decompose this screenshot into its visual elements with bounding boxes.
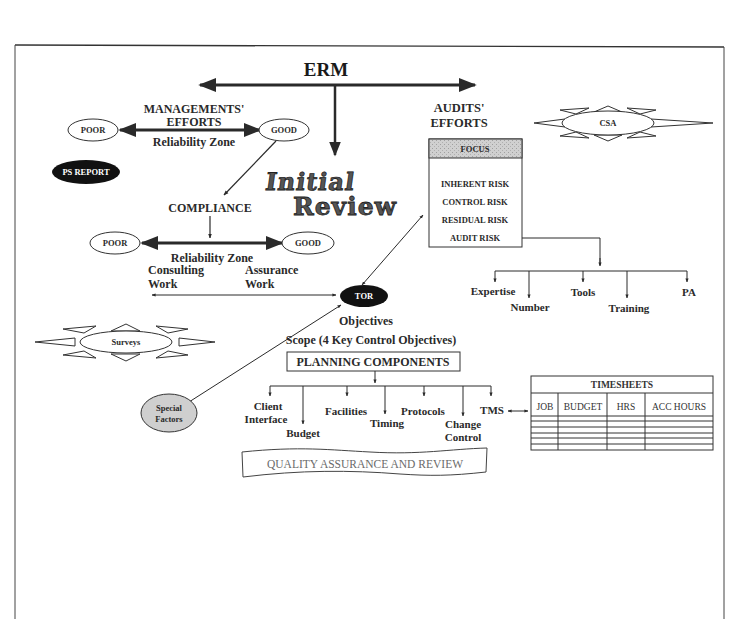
component-timing: Timing — [370, 417, 405, 429]
component-change-control-line2: Control — [445, 431, 481, 443]
quality-assurance-label: QUALITY ASSURANCE AND REVIEW — [267, 458, 463, 470]
resource-tools: Tools — [571, 286, 596, 298]
tor-label: TOR — [355, 291, 374, 301]
focus-tor-arrow — [362, 215, 423, 285]
component-facilities: Facilities — [325, 405, 368, 417]
resource-training: Training — [609, 302, 650, 314]
special-factors-line1: Special — [156, 403, 183, 413]
resource-pa: PA — [682, 286, 696, 298]
mgmt-reliability-zone: Reliability Zone — [153, 135, 236, 149]
mgmt-poor-label: POOR — [81, 125, 106, 135]
compliance-label: COMPLIANCE — [168, 201, 251, 215]
focus-to-resources-connector — [522, 238, 600, 265]
timesheets-col-hrs: HRS — [617, 402, 635, 412]
tor-objectives: Objectives — [339, 314, 393, 328]
ps-report-label: PS REPORT — [62, 167, 109, 177]
planning-components: PLANNING COMPONENTS Client Interface Bud… — [245, 352, 528, 443]
component-budget: Budget — [286, 427, 320, 439]
focus-item-inherent-risk: INHERENT RISK — [441, 179, 509, 189]
managements-efforts: MANAGEMENTS' EFFORTS POOR GOOD Reliabili… — [68, 102, 309, 149]
csa-label: CSA — [599, 118, 617, 128]
initial-review-wordart: Initial Review — [264, 167, 398, 221]
focus-item-control-risk: CONTROL RISK — [442, 197, 508, 207]
managements-heading-line1: MANAGEMENTS' — [144, 102, 245, 116]
consulting-work-line1: Consulting — [148, 263, 204, 277]
timesheets-title: TIMESHEETS — [591, 380, 653, 390]
quality-assurance-banner: QUALITY ASSURANCE AND REVIEW — [242, 448, 487, 477]
timesheets-col-budget: BUDGET — [564, 402, 603, 412]
timesheets-col-acc-hours: ACC HOURS — [652, 402, 706, 412]
audits-efforts: AUDITS' EFFORTS FOCUS INHERENT RISK CONT… — [429, 101, 696, 314]
erm-title: ERM — [304, 59, 348, 80]
special-factors-line2: Factors — [155, 414, 183, 424]
resource-number: Number — [510, 301, 549, 313]
resource-expertise: Expertise — [471, 285, 516, 297]
timesheets-col-job: JOB — [537, 402, 554, 412]
audits-heading-line1: AUDITS' — [434, 101, 485, 115]
focus-header-label: FOCUS — [461, 144, 490, 154]
managements-heading-line2: EFFORTS — [167, 115, 222, 129]
diagram-canvas: ERM MANAGEMENTS' EFFORTS POOR GOOD Relia… — [0, 0, 739, 619]
consulting-work-line2: Work — [148, 277, 178, 291]
csa-starburst: CSA — [534, 106, 713, 141]
component-protocols: Protocols — [401, 405, 446, 417]
timesheets-table: TIMESHEETS JOB BUDGET HRS ACC HOURS — [531, 376, 713, 450]
compliance-good-label: GOOD — [295, 238, 321, 248]
tor-scope: Scope (4 Key Control Objectives) — [286, 333, 456, 347]
ps-report-node: PS REPORT — [52, 160, 120, 184]
assurance-work-line1: Assurance — [245, 263, 299, 277]
compliance-poor-label: POOR — [103, 238, 128, 248]
mgmt-good-label: GOOD — [271, 125, 297, 135]
focus-item-residual-risk: RESIDUAL RISK — [442, 215, 509, 225]
component-client-interface-line1: Client — [254, 400, 283, 412]
planning-components-title: PLANNING COMPONENTS — [296, 355, 449, 369]
component-change-control-line1: Change — [445, 418, 481, 430]
component-client-interface-line2: Interface — [245, 413, 288, 425]
focus-item-audit-risk: AUDIT RISK — [450, 233, 501, 243]
initial-review-line2: Review — [293, 192, 398, 221]
audits-heading-line2: EFFORTS — [430, 116, 487, 130]
assurance-work-line2: Work — [245, 277, 275, 291]
component-tms: TMS — [480, 404, 504, 416]
surveys-starburst: Surveys — [35, 324, 215, 361]
surveys-label: Surveys — [112, 337, 142, 347]
